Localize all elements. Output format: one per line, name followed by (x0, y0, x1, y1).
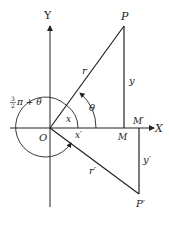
point-p-prime-label: P′ (135, 198, 146, 209)
segment-r-prime-label: r′ (89, 165, 97, 176)
point-m-prime-label: M′ (132, 116, 144, 126)
point-p-label: P (120, 10, 129, 23)
x-axis-label: X (154, 122, 164, 135)
segment-y-prime-label: y′ (142, 154, 152, 165)
y-axis-label: Y (43, 9, 52, 22)
angle-theta-label: θ (89, 102, 95, 113)
segment-r-label: r (82, 65, 88, 76)
segment-op (50, 26, 124, 128)
segment-x-prime-label: x′ (75, 130, 82, 140)
rotation-fraction-denominator: 2 (11, 102, 15, 109)
rotation-fraction-numerator: 3 (11, 95, 15, 102)
segment-x-label: x (66, 114, 71, 124)
rotation-angle-rest-label: π + θ (16, 97, 42, 107)
segment-y-label: y (128, 75, 135, 86)
coordinate-rotation-diagram: Y X P O M M′ P′ r y x x′ r′ y′ θ 3 2 π +… (0, 0, 169, 226)
point-origin-label: O (39, 132, 47, 143)
point-m-label: M (117, 132, 128, 142)
